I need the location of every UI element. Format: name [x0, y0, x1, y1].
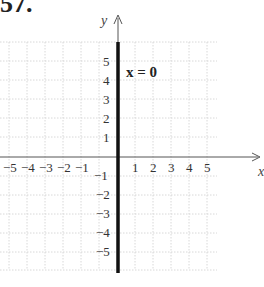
- svg-text:−3: −3: [39, 160, 53, 175]
- svg-text:3: 3: [168, 160, 175, 175]
- svg-text:5: 5: [204, 160, 211, 175]
- svg-text:4: 4: [186, 160, 193, 175]
- svg-text:−5: −5: [96, 244, 110, 259]
- svg-text:−4: −4: [21, 160, 35, 175]
- svg-text:5: 5: [103, 54, 110, 69]
- svg-text:2: 2: [103, 111, 110, 126]
- svg-text:4: 4: [103, 73, 110, 88]
- svg-text:−2: −2: [57, 160, 71, 175]
- svg-text:−5: −5: [3, 160, 17, 175]
- svg-text:−2: −2: [96, 187, 110, 202]
- svg-text:1: 1: [103, 130, 110, 145]
- svg-text:3: 3: [103, 92, 110, 107]
- svg-text:2: 2: [150, 160, 157, 175]
- svg-text:−1: −1: [75, 160, 89, 175]
- x-axis-label: x: [257, 164, 264, 179]
- graph: 57. x y x = 0: [0, 0, 264, 287]
- svg-text:−4: −4: [96, 225, 110, 240]
- y-axis-label: y: [99, 13, 108, 28]
- y-axis: y: [99, 13, 122, 42]
- problem-number: 57.: [0, 0, 33, 18]
- svg-text:−1: −1: [94, 168, 108, 183]
- svg-text:−3: −3: [96, 206, 110, 221]
- svg-text:1: 1: [132, 160, 139, 175]
- equation-label: x = 0: [126, 64, 157, 80]
